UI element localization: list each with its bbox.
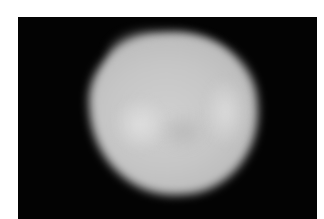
object-highlight-right (203, 77, 248, 147)
object-shade-center (158, 112, 208, 152)
photo-frame (18, 17, 317, 219)
